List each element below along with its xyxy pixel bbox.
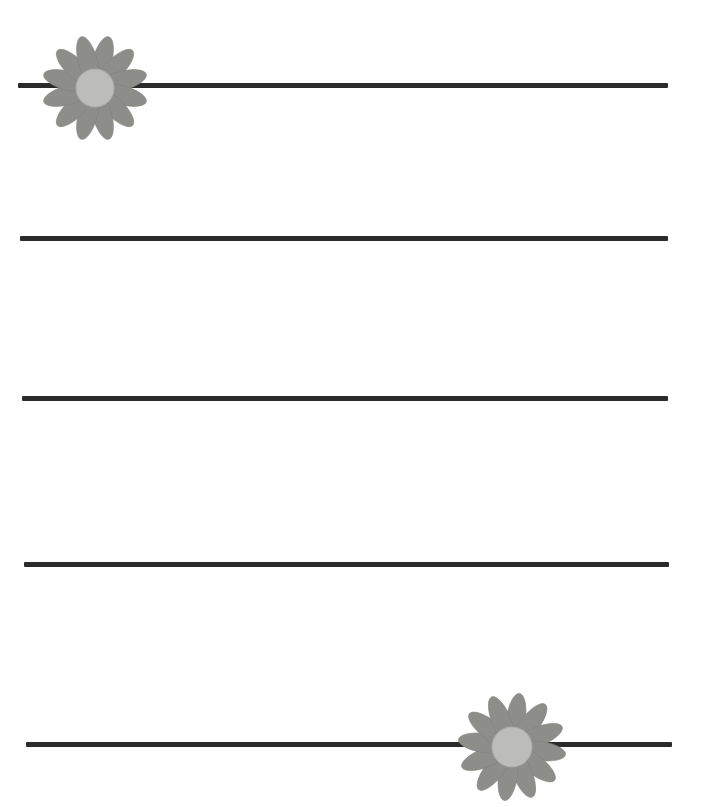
rule-line-3: [22, 396, 668, 401]
rule-line-4: [24, 562, 669, 567]
daisy-flower-icon-top-left: [35, 28, 155, 148]
rule-line-2: [20, 236, 668, 241]
rule-line-1: [18, 83, 668, 88]
daisy-flower-icon-bottom-right: [452, 687, 572, 807]
rule-line-5: [26, 742, 672, 747]
writing-paper-page: [0, 0, 705, 807]
